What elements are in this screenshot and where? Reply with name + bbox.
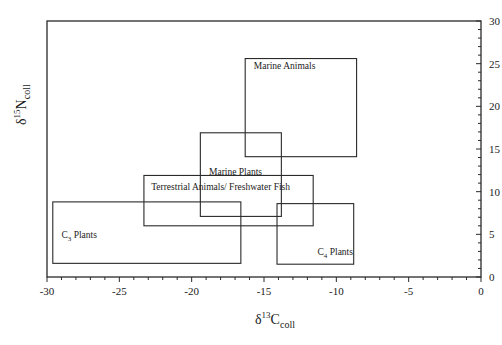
- region-marine-animals: Marine Animals: [245, 59, 356, 157]
- region-label: C3 Plants: [61, 230, 97, 243]
- x-tick-label: -15: [257, 285, 272, 297]
- y-tick-label: 20: [489, 100, 501, 112]
- y-tick-label: 5: [489, 228, 495, 240]
- y-axis: 051015202530: [476, 15, 501, 283]
- x-tick-label: -5: [404, 285, 414, 297]
- region-box: [245, 59, 356, 157]
- region-terrestrial-animals-freshwater-fish: Terrestrial Animals/ Freshwater Fish: [144, 175, 313, 225]
- chart: -30-25-20-15-10-50 051015202530 Marine A…: [0, 0, 502, 345]
- y-tick-label: 15: [489, 143, 501, 155]
- plot-frame: [47, 21, 481, 277]
- x-tick-label: 0: [478, 285, 484, 297]
- x-tick-label: -25: [112, 285, 127, 297]
- y-tick-label: 10: [489, 186, 501, 198]
- region-label: Marine Animals: [254, 61, 316, 71]
- region-c4-plants: C4 Plants: [277, 204, 354, 265]
- region-c3-plants: C3 Plants: [53, 202, 241, 263]
- y-tick-label: 0: [489, 271, 495, 283]
- x-tick-label: -10: [329, 285, 344, 297]
- y-axis-title: δ15Ncoll: [12, 84, 32, 125]
- y-tick-label: 25: [489, 58, 501, 70]
- region-boxes: Marine AnimalsMarine PlantsTerrestrial A…: [53, 59, 357, 265]
- x-axis-title: δ13Ccoll: [255, 310, 295, 330]
- region-label: Terrestrial Animals/ Freshwater Fish: [151, 182, 290, 192]
- x-axis: -30-25-20-15-10-50: [40, 277, 485, 297]
- y-tick-label: 30: [489, 15, 501, 27]
- region-label: C4 Plants: [318, 247, 354, 260]
- x-tick-label: -30: [40, 285, 55, 297]
- x-tick-label: -20: [184, 285, 199, 297]
